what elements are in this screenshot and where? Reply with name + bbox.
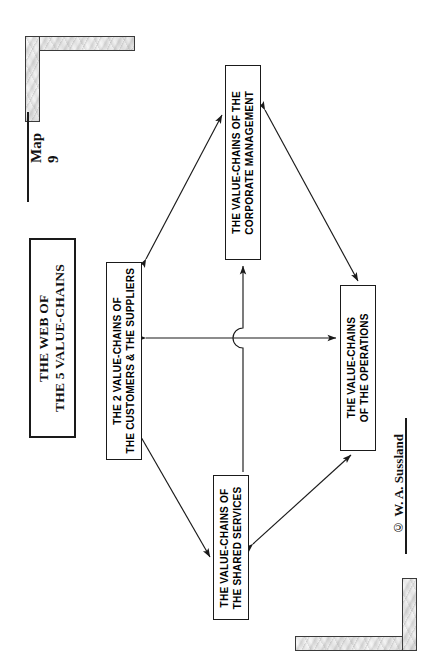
corner-frame-bar-horizontal [295, 636, 417, 651]
node-customers-suppliers: THE 2 VALUE-CHAINS OF THE CUSTOMERS & TH… [106, 262, 142, 460]
corner-frame-bar-horizontal [25, 36, 135, 51]
node-operations: THE VALUE-CHAINS OF THE OPERATIONS [340, 285, 376, 451]
connector-customers-to-shared [141, 437, 210, 557]
connector-corporate-to-operations [265, 110, 358, 281]
map-page: Map 9 THE WEB OF THE 5 VALUE-CHAINS © W.… [0, 0, 435, 667]
node-corporate-management-label: THE VALUE-CHAINS OF THE CORPORATE MANAGE… [230, 91, 256, 235]
node-shared-services-label: THE VALUE-CHAINS OF THE SHARED SERVICES [218, 486, 244, 609]
node-shared-services: THE VALUE-CHAINS OF THE SHARED SERVICES [213, 475, 249, 620]
node-customers-suppliers-label: THE 2 VALUE-CHAINS OF THE CUSTOMERS & TH… [111, 268, 137, 454]
connector-shared-to-operations [253, 455, 351, 544]
map-label: Map 9 [14, 123, 76, 163]
map-label-text: Map 9 [28, 123, 62, 163]
corner-frame-bar-vertical [25, 36, 40, 122]
node-operations-label: THE VALUE-CHAINS OF THE OPERATIONS [345, 314, 371, 423]
copyright-text: © W. A. Sussland [391, 434, 407, 535]
title-box: THE WEB OF THE 5 VALUE-CHAINS [29, 238, 76, 438]
connector-shared-to-corporate [233, 266, 243, 472]
corner-frame-bar-vertical [402, 578, 417, 651]
node-corporate-management: THE VALUE-CHAINS OF THE CORPORATE MANAGE… [225, 65, 261, 260]
title-text: THE WEB OF THE 5 VALUE-CHAINS [36, 264, 69, 412]
connector-customers-to-corporate [146, 115, 222, 259]
copyright: © W. A. Sussland [386, 414, 412, 554]
